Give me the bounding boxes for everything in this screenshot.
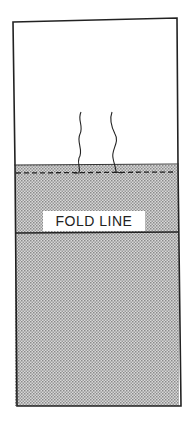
thread-right — [111, 112, 122, 173]
shaded-panel — [15, 165, 179, 406]
fold-line-label: FOLD LINE — [43, 211, 145, 231]
thread-left — [74, 112, 81, 173]
panel-top-edge — [14, 164, 179, 165]
fold-line — [16, 232, 178, 233]
